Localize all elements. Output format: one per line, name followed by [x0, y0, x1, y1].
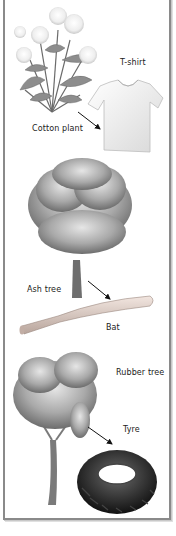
bat-icon — [20, 296, 154, 335]
label-bat: Bat — [106, 323, 120, 332]
label-t-shirt: T-shirt — [120, 58, 146, 67]
ash-tree-icon — [28, 158, 132, 298]
arrow-ash-to-bat — [88, 281, 110, 299]
label-ash-tree: Ash tree — [27, 285, 61, 294]
cotton-plant-icon — [14, 7, 97, 112]
illustrations — [0, 0, 176, 536]
t-shirt-icon — [88, 80, 163, 152]
label-rubber-tree: Rubber tree — [116, 368, 164, 377]
tyre-icon — [77, 450, 157, 514]
arrow-rubber-to-tyre — [88, 427, 112, 444]
label-tyre: Tyre — [123, 425, 140, 434]
label-cotton-plant: Cotton plant — [32, 124, 83, 133]
